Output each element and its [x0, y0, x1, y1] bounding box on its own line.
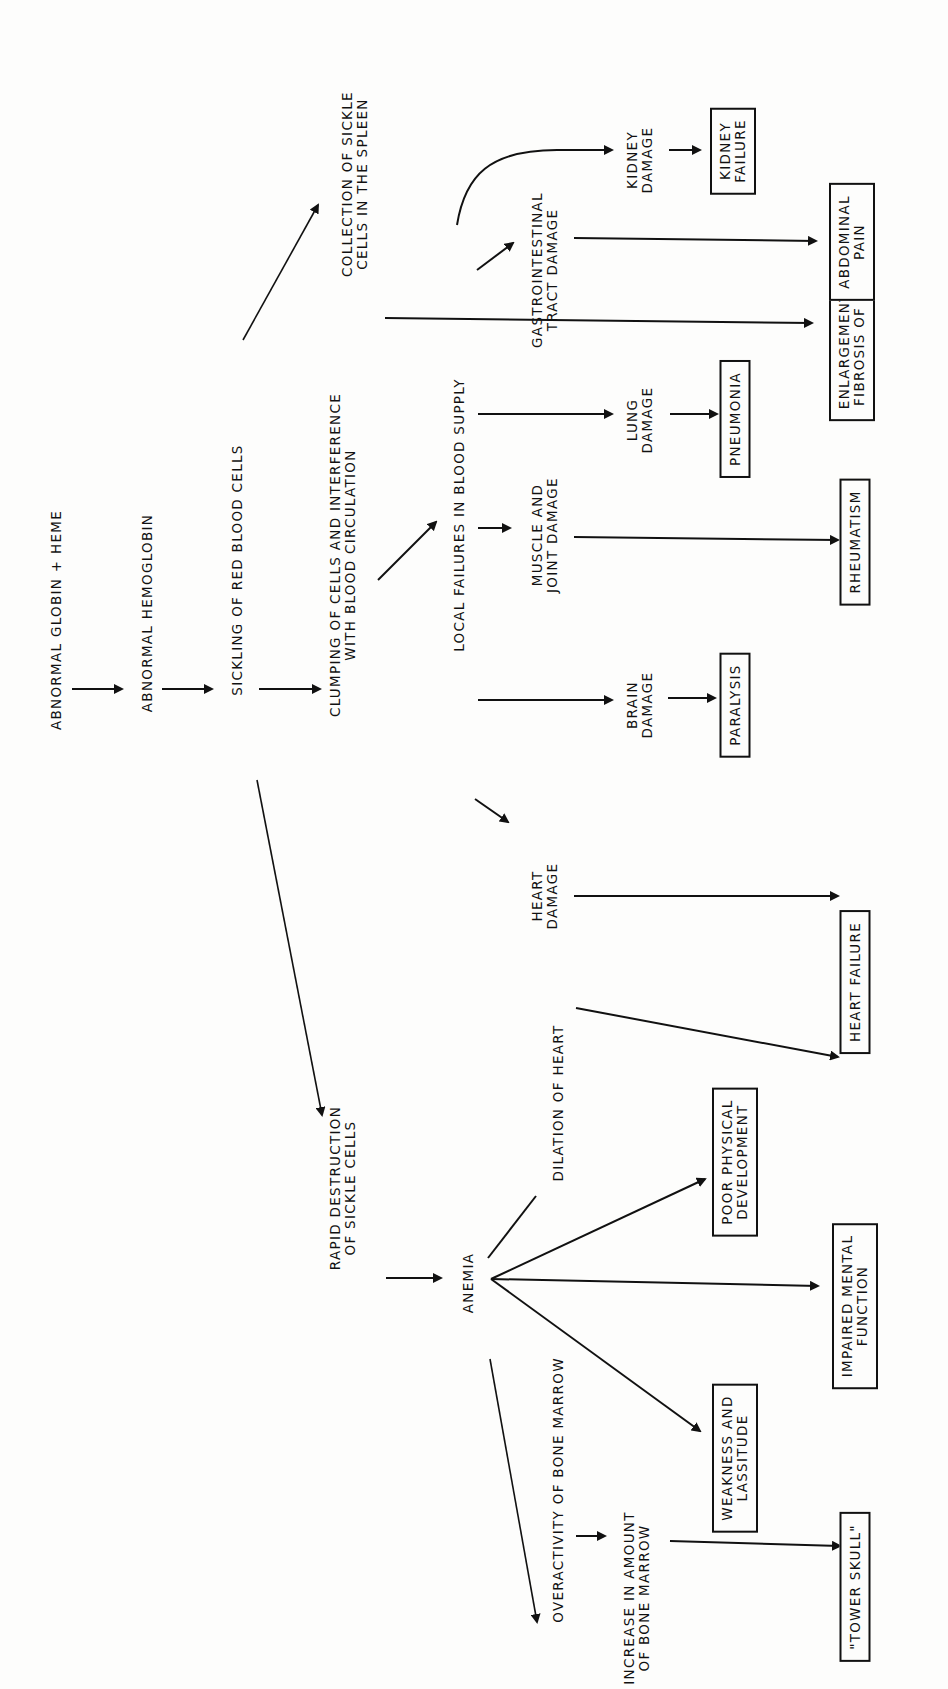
node-local-failures-blood-supply: LOCAL FAILURES IN BLOOD SUPPLY: [452, 378, 467, 652]
arrow-local-to-gi: [477, 243, 513, 270]
node-abnormal-hemoglobin: ABNORMAL HEMOGLOBIN: [140, 514, 155, 712]
node-heart-damage: HEART DAMAGE: [530, 863, 560, 930]
arrow-anemia-to-impaired-mental: [491, 1279, 818, 1286]
arrow-muscle-to-rheumatism: [574, 537, 838, 540]
arrow-layer: [0, 0, 948, 1689]
node-collection-sickle-cells-spleen: COLLECTION OF SICKLE CELLS IN THE SPLEEN: [340, 91, 370, 277]
arrow-anemia-to-overactivity: [490, 1359, 537, 1622]
node-anemia: ANEMIA: [461, 1253, 476, 1314]
node-dilation-of-heart: DILATION OF HEART: [551, 1025, 566, 1182]
arrow-spleen-collection-to-spleen: [385, 318, 812, 323]
node-overactivity-bone-marrow: OVERACTIVITY OF BONE MARROW: [551, 1357, 566, 1623]
node-increase-bone-marrow: INCREASE IN AMOUNT OF BONE MARROW: [622, 1511, 652, 1685]
node-rapid-destruction-sickle-cells: RAPID DESTRUCTION OF SICKLE CELLS: [328, 1106, 358, 1270]
node-muscle-joint-damage: MUSCLE AND JOINT DAMAGE: [530, 477, 560, 593]
node-gastrointestinal-damage: GASTROINTESTINAL TRACT DAMAGE: [530, 192, 560, 348]
arrow-clumping-to-local-failures: [378, 522, 436, 580]
arrow-anemia-to-weakness: [491, 1279, 700, 1431]
arrow-increase-to-tower-skull: [670, 1541, 840, 1546]
box-weakness-lassitude: WEAKNESS AND LASSITUDE: [712, 1383, 758, 1532]
arrow-sickling-to-spleen-collection: [243, 205, 318, 340]
arrow-dilation-to-heart-failure: [576, 1008, 838, 1057]
node-kidney-damage: KIDNEY DAMAGE: [625, 127, 655, 194]
node-sickling-of-red-blood-cells: SICKLING OF RED BLOOD CELLS: [230, 444, 245, 695]
node-abnormal-globin-heme: ABNORMAL GLOBIN + HEME: [49, 510, 64, 730]
box-heart-failure: HEART FAILURE: [840, 910, 871, 1054]
node-clumping-of-cells: CLUMPING OF CELLS AND INTERFERENCE WITH …: [328, 393, 358, 717]
box-abdominal-pain: ABDOMINAL PAIN: [829, 183, 875, 301]
arrow-sickling-to-destruction: [257, 780, 322, 1115]
arrow-local-to-heart: [475, 799, 508, 822]
sickle-cell-pathology-diagram: ABNORMAL GLOBIN + HEME ABNORMAL HEMOGLOB…: [0, 0, 948, 1689]
arrow-anemia-to-poor-physical: [491, 1179, 705, 1279]
box-tower-skull: "TOWER SKULL": [840, 1512, 871, 1662]
box-kidney-failure: KIDNEY FAILURE: [710, 107, 756, 194]
box-paralysis: PARALYSIS: [720, 652, 751, 757]
arrow-gi-to-abdominal: [574, 238, 816, 241]
node-brain-damage: BRAIN DAMAGE: [625, 672, 655, 739]
box-poor-physical-development: POOR PHYSICAL DEVELOPMENT: [712, 1087, 758, 1236]
box-impaired-mental-function: IMPAIRED MENTAL FUNCTION: [832, 1223, 878, 1389]
box-pneumonia: PNEUMONIA: [720, 360, 751, 478]
node-lung-damage: LUNG DAMAGE: [625, 387, 655, 454]
box-rheumatism: RHEUMATISM: [840, 478, 871, 605]
line-anemia-to-dilation: [488, 1196, 536, 1258]
